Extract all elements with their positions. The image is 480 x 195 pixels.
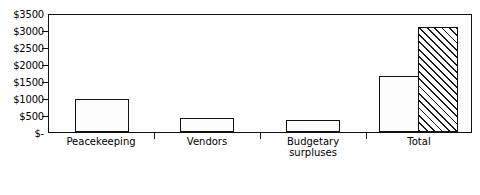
bar-peacekeeping-amount-owed: [75, 99, 129, 132]
x-label-vendors: Vendors: [154, 136, 260, 158]
bar-chart: $3500 $3000 $2500 $2000 $1500 $1000 $500…: [0, 0, 480, 195]
x-axis-labels: Peacekeeping Vendors Budgetary surpluses…: [48, 136, 472, 158]
y-tick-label: $3000: [13, 26, 44, 37]
bar-group-total: [366, 15, 472, 132]
bar-vendors-amount-owed: [180, 118, 234, 132]
y-tick-label: $500: [19, 111, 44, 122]
bar-total-total: [418, 27, 458, 132]
bar-group-vendors: [155, 15, 261, 132]
bar-container: [49, 15, 471, 132]
x-label-total: Total: [366, 136, 472, 158]
bar-total-amount-owed: [379, 76, 419, 132]
bar-group-budgetary-surpluses: [260, 15, 366, 132]
y-axis-labels: $3500 $3000 $2500 $2000 $1500 $1000 $500…: [0, 0, 44, 195]
x-label-peacekeeping: Peacekeeping: [48, 136, 154, 158]
y-tick-label: $3500: [13, 9, 44, 20]
y-tick-label: $1000: [13, 94, 44, 105]
y-tick-label: $1500: [13, 77, 44, 88]
plot-area: [48, 14, 472, 133]
bar-budgetary-surpluses-amount-owed: [286, 120, 340, 132]
y-tick-label: $2000: [13, 60, 44, 71]
y-tick-label: $-: [34, 128, 44, 139]
bar-group-peacekeeping: [49, 15, 155, 132]
y-tick-label: $2500: [13, 43, 44, 54]
x-label-budgetary-surpluses: Budgetary surpluses: [260, 136, 366, 158]
